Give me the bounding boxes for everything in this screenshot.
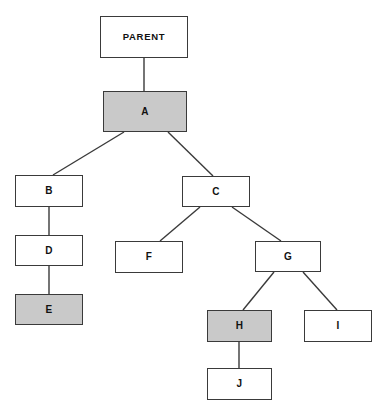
edge-a-to-c [168,132,213,176]
node-c[interactable]: C [182,176,250,207]
node-i[interactable]: I [304,310,372,342]
node-label-g: G [284,252,292,262]
node-b[interactable]: B [15,175,83,207]
edge-c-to-f [160,207,200,241]
node-a[interactable]: A [103,91,187,132]
node-label-a: A [141,107,149,117]
node-parent[interactable]: PARENT [100,16,188,58]
node-label-parent: PARENT [123,32,166,42]
edge-g-to-h [243,272,274,310]
edge-a-to-b [53,132,124,175]
edge-g-to-i [303,272,337,310]
node-e[interactable]: E [15,294,83,325]
node-label-j: J [237,379,243,389]
node-label-e: E [45,305,52,315]
node-d[interactable]: D [15,235,83,266]
node-g[interactable]: G [255,241,321,272]
node-label-c: C [212,187,220,197]
edge-c-to-g [232,207,281,241]
node-label-h: H [236,321,244,331]
node-label-i: I [336,321,339,331]
node-label-d: D [45,246,53,256]
node-label-b: B [45,186,53,196]
edge-layer [0,0,390,420]
node-j[interactable]: J [207,368,272,400]
tree-diagram: PARENTABCDFGEHIJ [0,0,390,420]
node-h[interactable]: H [207,310,272,342]
node-label-f: F [146,252,153,262]
node-f[interactable]: F [115,241,183,273]
